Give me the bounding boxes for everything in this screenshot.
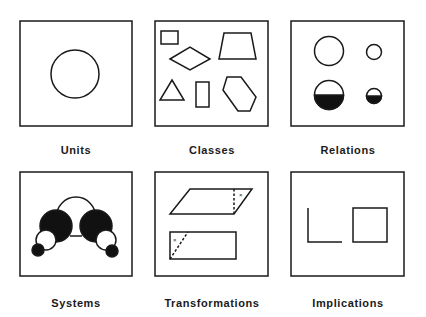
classes-panel xyxy=(155,21,268,126)
l-shape-icon xyxy=(308,208,342,242)
units-panel xyxy=(20,21,132,126)
relations-frame xyxy=(291,21,404,126)
x-mark: × xyxy=(239,192,243,198)
label-transformations: Transformations xyxy=(142,297,282,309)
label-classes: Classes xyxy=(142,144,282,156)
label-systems: Systems xyxy=(6,297,146,309)
large-circle-icon xyxy=(315,37,344,66)
systems-panel xyxy=(20,172,132,276)
hexagon-icon xyxy=(223,77,256,111)
implications-panel xyxy=(291,172,404,276)
molecule-icon xyxy=(32,197,118,257)
small-circle-icon xyxy=(367,45,382,60)
large-half-filled-circle-icon xyxy=(315,81,344,110)
label-relations: Relations xyxy=(278,144,418,156)
systems-frame xyxy=(20,172,132,276)
rectangle-icon xyxy=(170,232,236,259)
x-mark: × xyxy=(173,237,177,243)
small-rectangle-icon xyxy=(161,31,178,44)
transformations-panel: × × xyxy=(155,172,268,276)
tall-rectangle-icon xyxy=(196,82,209,107)
square-icon xyxy=(353,208,387,242)
small-half-filled-circle-icon xyxy=(367,89,382,104)
transformations-frame xyxy=(155,172,268,276)
units-frame xyxy=(20,21,132,126)
diagram-canvas: × × xyxy=(0,0,426,317)
label-units: Units xyxy=(6,144,146,156)
relations-panel xyxy=(291,21,404,126)
circle-icon xyxy=(51,50,99,98)
label-implications: Implications xyxy=(278,297,418,309)
rhombus-icon xyxy=(170,47,210,70)
trapezoid-icon xyxy=(219,33,256,59)
triangle-icon xyxy=(160,80,184,100)
